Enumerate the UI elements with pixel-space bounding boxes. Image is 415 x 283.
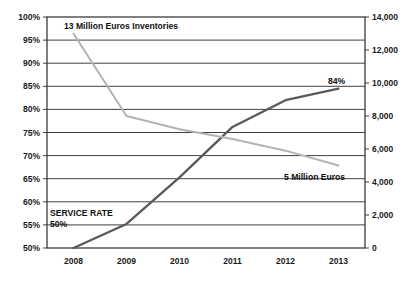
chart-background xyxy=(0,0,415,283)
inventories-start-label: 13 Million Euros Inventories xyxy=(64,21,178,31)
right-axis-tick-label: 12,000 xyxy=(372,45,398,55)
right-axis-tick-label: 4,000 xyxy=(372,177,394,187)
service-rate-start-label-line2: 50% xyxy=(50,219,68,229)
left-axis-tick-label: 70% xyxy=(23,151,40,161)
x-axis-tick-label: 2009 xyxy=(117,256,136,266)
right-axis-tick-label: 0 xyxy=(372,243,377,253)
right-axis-tick-label: 2,000 xyxy=(372,210,394,220)
service-rate-end-label: 84% xyxy=(328,76,346,86)
left-axis-tick-label: 85% xyxy=(23,81,40,91)
x-axis-tick-label: 2008 xyxy=(64,256,83,266)
left-axis-tick-label: 55% xyxy=(23,220,40,230)
right-axis-tick-label: 6,000 xyxy=(372,144,394,154)
service-rate-start-label-line1: SERVICE RATE xyxy=(50,208,113,218)
x-axis-tick-label: 2013 xyxy=(329,256,348,266)
x-axis-tick-label: 2010 xyxy=(170,256,189,266)
right-axis-tick-label: 8,000 xyxy=(372,111,394,121)
left-axis-tick-label: 95% xyxy=(23,35,40,45)
x-axis-tick-label: 2011 xyxy=(223,256,242,266)
right-axis-tick-label: 10,000 xyxy=(372,78,398,88)
left-axis-tick-label: 75% xyxy=(23,128,40,138)
left-axis-tick-label: 80% xyxy=(23,104,40,114)
x-axis-tick-label: 2012 xyxy=(276,256,295,266)
left-axis-tick-label: 90% xyxy=(23,58,40,68)
dual-axis-line-chart: 50%55%60%65%70%75%80%85%90%95%100% 02,00… xyxy=(0,0,415,283)
left-axis-tick-label: 65% xyxy=(23,174,40,184)
inventories-end-label: 5 Million Euros xyxy=(284,172,345,182)
right-axis-tick-label: 14,000 xyxy=(372,12,398,22)
left-axis-tick-label: 60% xyxy=(23,197,40,207)
chart-container: 50%55%60%65%70%75%80%85%90%95%100% 02,00… xyxy=(0,0,415,283)
left-axis-tick-label: 50% xyxy=(23,243,40,253)
left-axis-tick-label: 100% xyxy=(18,12,40,22)
